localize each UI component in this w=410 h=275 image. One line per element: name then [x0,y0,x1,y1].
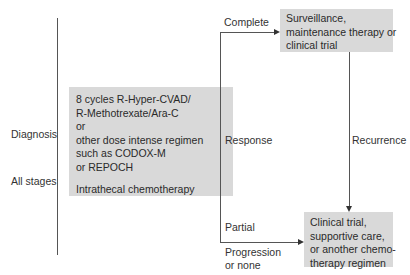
left-divider-line [57,18,58,255]
progression-label-line1: Progression [225,246,281,259]
treatment-line-4: other dose intense regimen [76,134,233,148]
surveillance-box: Surveillance, maintenance therapy or cli… [280,9,393,52]
clinical-line-1: Clinical trial, [310,216,393,230]
complete-arrow-line [220,32,274,33]
clinical-line-4: therapy regimen [310,257,393,271]
partial-arrow-line [220,242,298,243]
initial-treatment-box: 8 cycles R-Hyper-CVAD/ R-Methotrexate/Ar… [69,87,233,196]
intrathecal-chemotherapy: Intrathecal chemotherapy [76,183,233,197]
surveillance-line-2: maintenance therapy or [286,26,393,40]
response-label: Response [225,134,272,147]
surveillance-line-3: clinical trial [286,39,393,53]
recurrence-label: Recurrence [352,134,406,147]
complete-label: Complete [224,16,269,29]
clinical-line-2: supportive care, [310,230,393,244]
diagnosis-label: Diagnosis [11,128,57,141]
all-stages-label: All stages [11,175,57,188]
clinical-line-3: or another chemo- [310,243,393,257]
treatment-line-1: 8 cycles R-Hyper-CVAD/ [76,93,233,107]
clinical-trial-box: Clinical trial, supportive care, or anot… [304,212,393,267]
recurrence-arrow-line [349,52,350,207]
treatment-line-5: such as CODOX-M [76,147,233,161]
treatment-line-2: R-Methotrexate/Ara-C [76,107,233,121]
partial-label: Partial [225,221,255,234]
treatment-line-6: or REPOCH [76,161,233,175]
treatment-line-3: or [76,120,233,134]
progression-label-line2: or none [225,259,261,272]
response-bracket-line [220,32,221,243]
surveillance-line-1: Surveillance, [286,12,393,26]
